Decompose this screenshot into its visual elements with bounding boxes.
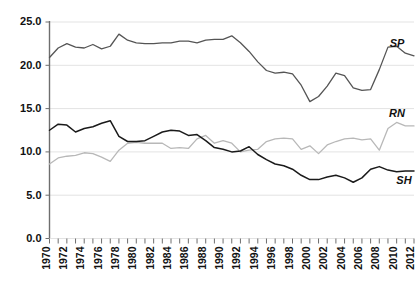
x-tick-label: 2008 [369, 246, 381, 270]
x-tick-label: 1970 [40, 246, 52, 270]
x-tick-label: 1986 [178, 246, 190, 270]
gridlines [50, 22, 415, 239]
x-tick-label: 1984 [161, 246, 173, 270]
x-tick-label: 2006 [352, 246, 364, 270]
x-tick-label: 1974 [74, 246, 86, 270]
x-tick-label: 1998 [283, 246, 295, 270]
chart-canvas: 0.05.010.015.020.025.0 19701972197419761… [0, 0, 420, 289]
x-tick-label: 2000 [300, 246, 312, 270]
x-tick-label: 2004 [335, 246, 347, 270]
y-tick-label: 0.0 [26, 232, 41, 244]
x-tick-label: 2010 [387, 246, 399, 270]
x-axis-ticks [50, 239, 415, 244]
x-tick-label: 1994 [248, 246, 260, 270]
line-chart: 0.05.010.015.020.025.0 19701972197419761… [0, 0, 420, 289]
x-tick-label: 1992 [230, 246, 242, 270]
x-tick-label: 1988 [196, 246, 208, 270]
x-tick-label: 1978 [109, 246, 121, 270]
x-tick-label: 2012 [404, 246, 416, 270]
series-line-sp [50, 34, 415, 102]
axes [46, 21, 415, 239]
y-tick-label: 15.0 [20, 102, 41, 114]
y-tick-label: 25.0 [20, 15, 41, 27]
y-tick-label: 5.0 [26, 189, 41, 201]
y-tick-label: 20.0 [20, 59, 41, 71]
x-axis-tick-labels: 1970197219741976197819801982198419861988… [40, 246, 417, 270]
series-label-sh: SH [396, 174, 412, 186]
x-tick-label: 1990 [213, 246, 225, 270]
series-line-rn [50, 122, 415, 164]
y-tick-label: 10.0 [20, 145, 41, 157]
x-tick-label: 2002 [317, 246, 329, 270]
x-tick-label: 1972 [57, 246, 69, 270]
x-tick-label: 1982 [144, 246, 156, 270]
x-tick-label: 1976 [92, 246, 104, 270]
y-axis-tick-labels: 0.05.010.015.020.025.0 [20, 15, 41, 244]
series-label-rn: RN [389, 107, 406, 119]
x-tick-label: 1996 [265, 246, 277, 270]
series-label-sp: SP [390, 37, 405, 49]
x-tick-label: 1980 [126, 246, 138, 270]
series-labels-group: SPRNSH [389, 37, 413, 186]
